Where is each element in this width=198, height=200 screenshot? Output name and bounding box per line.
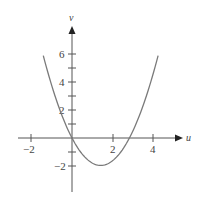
y-axis-arrow-icon xyxy=(69,26,76,34)
x-tick-label: 2 xyxy=(110,143,116,155)
x-tick-label: −2 xyxy=(23,143,35,155)
x-axis-arrow-icon xyxy=(175,135,183,142)
y-tick-label: 4 xyxy=(59,76,65,88)
parabola-chart: u v −2 2 4 6 4 2 −2 xyxy=(0,0,198,200)
parabola-curve xyxy=(43,56,158,166)
y-tick-label: 6 xyxy=(59,48,65,60)
y-tick-label: −2 xyxy=(54,160,66,172)
x-tick-label: 4 xyxy=(150,143,156,155)
y-axis-label: v xyxy=(69,12,74,23)
x-axis-label: u xyxy=(186,132,191,143)
